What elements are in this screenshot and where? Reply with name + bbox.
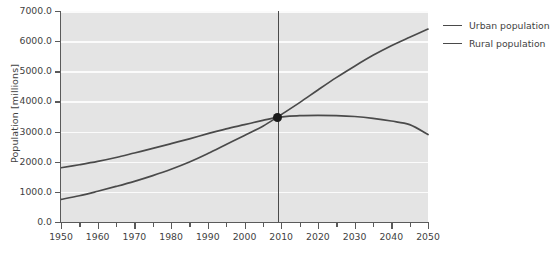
x-tick-mark: [208, 223, 209, 229]
legend-label-rural: Rural population: [469, 39, 545, 48]
x-tick-mark-minor: [226, 223, 227, 227]
x-tick-label: 2050: [406, 232, 450, 241]
y-tick-mark: [55, 162, 61, 163]
y-tick-label: 6000.0: [19, 36, 52, 45]
x-tick-mark-minor: [300, 223, 301, 227]
x-tick-mark-minor: [189, 223, 190, 227]
y-tick-label: 3000.0: [19, 127, 52, 136]
gridline: [61, 11, 428, 13]
y-tick-mark: [55, 132, 61, 133]
y-tick-label: 0.0: [37, 217, 52, 226]
legend-item-rural-population: Rural population: [443, 36, 543, 51]
gridline: [61, 71, 428, 73]
x-tick-mark-minor: [79, 223, 80, 227]
y-tick-label: 5000.0: [19, 66, 52, 75]
x-tick-mark: [281, 223, 282, 229]
chart-legend: Urban population Rural population: [443, 18, 543, 54]
x-tick-mark: [391, 223, 392, 229]
x-tick-mark: [355, 223, 356, 229]
x-tick-mark-minor: [153, 223, 154, 227]
crossover-point-marker: [273, 113, 282, 122]
y-tick-mark: [55, 101, 61, 102]
x-tick-mark: [98, 223, 99, 229]
x-tick-mark: [171, 223, 172, 229]
y-tick-label: 7000.0: [19, 6, 52, 15]
y-tick-label: 4000.0: [19, 96, 52, 105]
x-tick-mark-minor: [373, 223, 374, 227]
x-tick-mark: [318, 223, 319, 229]
y-tick-mark: [55, 11, 61, 12]
x-tick-mark: [134, 223, 135, 229]
y-tick-mark: [55, 192, 61, 193]
gridline: [61, 101, 428, 103]
x-tick-mark: [61, 223, 62, 229]
y-tick-label: 1000.0: [19, 187, 52, 196]
legend-label-urban: Urban population: [469, 21, 550, 30]
x-tick-mark: [245, 223, 246, 229]
x-tick-mark-minor: [263, 223, 264, 227]
x-tick-mark: [428, 223, 429, 229]
y-tick-label: 2000.0: [19, 157, 52, 166]
gridline: [61, 162, 428, 164]
plot-area: [61, 11, 428, 222]
y-tick-mark: [55, 41, 61, 42]
y-axis-line: [60, 11, 61, 222]
gridline: [61, 132, 428, 134]
legend-line-icon-rural: [443, 43, 462, 45]
x-tick-mark-minor: [116, 223, 117, 227]
y-axis-label: Population [millions]: [9, 34, 20, 194]
gridline: [61, 192, 428, 194]
legend-line-icon-urban: [443, 25, 462, 27]
gridline: [61, 41, 428, 43]
x-tick-mark-minor: [410, 223, 411, 227]
y-tick-mark: [55, 71, 61, 72]
legend-item-urban-population: Urban population: [443, 18, 543, 33]
x-tick-mark-minor: [336, 223, 337, 227]
